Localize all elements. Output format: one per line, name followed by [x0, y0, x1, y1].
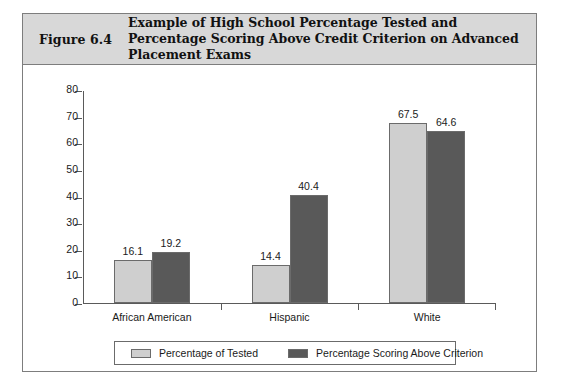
- x-axis-tick-mark: [495, 304, 496, 310]
- bar-value-label: 16.1: [114, 245, 152, 257]
- bar: [389, 123, 427, 303]
- y-axis-tick-label: 60: [66, 136, 78, 148]
- y-axis-tick-label: 80: [66, 83, 78, 95]
- figure-frame: Figure 6.4 Example of High School Percen…: [22, 13, 537, 372]
- y-axis-tick-label: 40: [66, 190, 78, 202]
- chart-legend: Percentage of TestedPercentage Scoring A…: [114, 341, 456, 365]
- x-axis-tick-mark: [358, 304, 359, 310]
- y-axis-line: [83, 91, 84, 304]
- legend-entry: Percentage Scoring Above Criterion: [288, 347, 483, 359]
- y-axis-tick-label: 0: [72, 296, 78, 308]
- legend-label: Percentage of Tested: [159, 347, 258, 359]
- plot-area: 01020304050607080 16.119.214.440.467.564…: [83, 91, 496, 304]
- y-axis-tick-label: 50: [66, 163, 78, 175]
- figure-number: Figure 6.4: [39, 32, 112, 47]
- legend-label: Percentage Scoring Above Criterion: [316, 347, 483, 359]
- y-axis-tick-label: 70: [66, 110, 78, 122]
- bar-value-label: 64.6: [427, 116, 465, 128]
- bar: [114, 260, 152, 303]
- x-axis-category-label: White: [358, 311, 496, 323]
- chart-body: 01020304050607080 16.119.214.440.467.564…: [23, 65, 536, 371]
- bar: [290, 195, 328, 303]
- legend-entry: Percentage of Tested: [131, 347, 258, 359]
- bar-value-label: 40.4: [290, 180, 328, 192]
- y-axis-tick-label: 10: [66, 269, 78, 281]
- bar: [427, 131, 465, 303]
- legend-swatch: [288, 349, 308, 358]
- legend-swatch: [131, 349, 151, 358]
- bar: [152, 252, 190, 303]
- bar-value-label: 14.4: [252, 250, 290, 262]
- x-axis-tick-mark: [221, 304, 222, 310]
- bar-value-label: 67.5: [389, 108, 427, 120]
- bar-value-label: 19.2: [152, 237, 190, 249]
- figure-title: Example of High School Percentage Tested…: [128, 15, 524, 63]
- y-axis-tick-label: 30: [66, 216, 78, 228]
- figure-header: Figure 6.4 Example of High School Percen…: [23, 14, 536, 65]
- x-axis-category-label: Hispanic: [221, 311, 359, 323]
- x-axis-line: [83, 303, 496, 304]
- bar: [252, 265, 290, 303]
- y-axis-tick-label: 20: [66, 243, 78, 255]
- x-axis-category-label: African American: [83, 311, 221, 323]
